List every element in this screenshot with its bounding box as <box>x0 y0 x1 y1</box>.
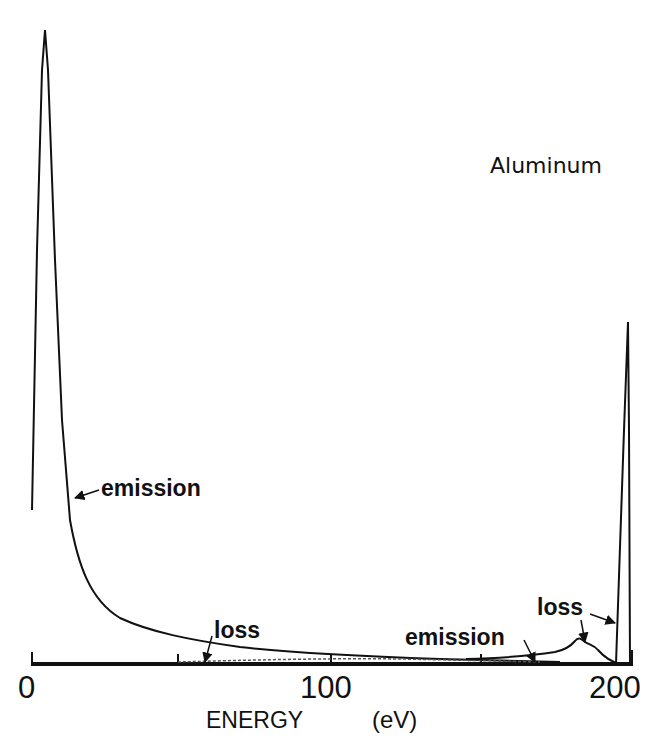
x-tick-label-100: 100 <box>300 670 352 706</box>
x-tick-label-200: 200 <box>589 670 641 706</box>
annotation-emission-low: emission <box>101 475 201 502</box>
elastic-peak <box>616 322 630 664</box>
arrow-loss-1 <box>205 636 212 662</box>
x-axis-label: ENERGY <box>206 707 303 734</box>
annotation-loss-low: loss <box>214 617 260 644</box>
arrow-loss-2b <box>590 614 615 623</box>
arrow-emission-1 <box>75 490 99 498</box>
arrow-emission-2 <box>524 640 535 662</box>
annotation-emission-high: emission <box>405 624 505 651</box>
x-axis-unit: (eV) <box>372 706 417 734</box>
annotation-loss-high: loss <box>537 594 583 621</box>
x-axis <box>31 650 632 666</box>
chart-title: Aluminum <box>490 153 602 178</box>
emission-curve-low <box>32 30 560 662</box>
spectrum-plot <box>0 0 671 752</box>
x-tick-label-0: 0 <box>18 670 35 706</box>
